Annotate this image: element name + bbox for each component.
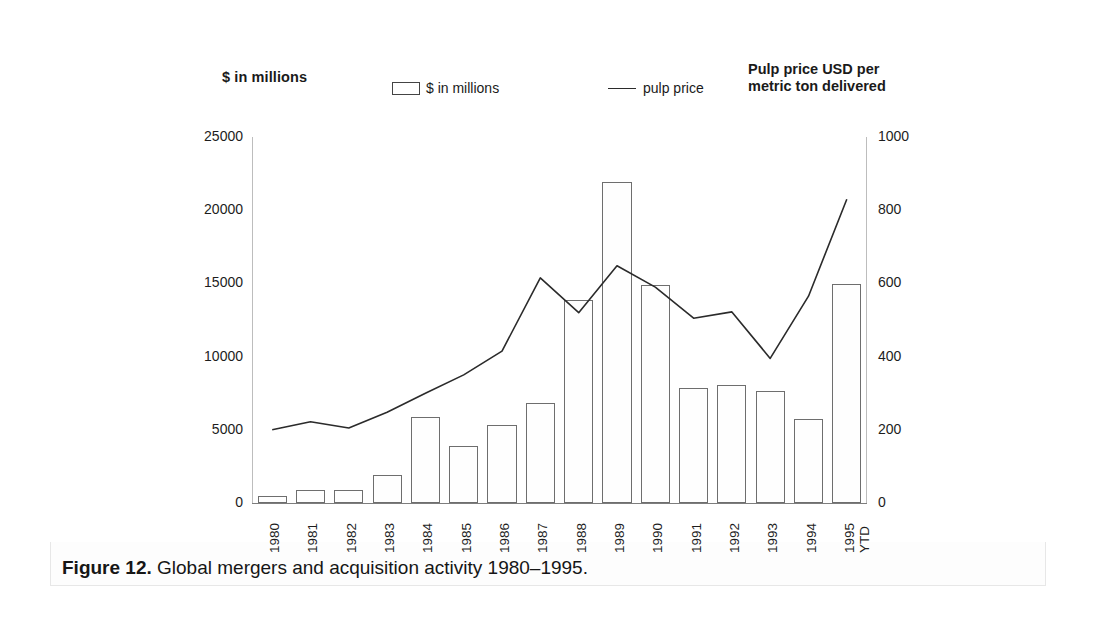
- x-tick-year: 1989: [612, 523, 627, 553]
- right-axis-tick-label: 400: [878, 348, 938, 364]
- x-tick-sublabel: YTD: [857, 523, 872, 553]
- left-axis-title: $ in millions: [222, 69, 307, 85]
- x-axis-tick-label: 1994: [804, 523, 819, 553]
- x-tick-year: 1984: [420, 523, 435, 553]
- x-axis-tick-label: 1992: [727, 523, 742, 553]
- legend-bar-swatch-icon: [392, 82, 420, 95]
- right-axis-tick-label: 800: [878, 201, 938, 217]
- right-axis-tick-label: 0: [878, 494, 938, 510]
- x-axis-tick-label: 1983: [382, 523, 397, 553]
- left-axis-tick-label: 20000: [181, 201, 243, 217]
- x-axis-tick-label: 1989: [612, 523, 627, 553]
- x-tick-year: 1987: [535, 523, 550, 553]
- x-tick-year: 1990: [650, 523, 665, 553]
- left-axis-tick-label: 10000: [181, 348, 243, 364]
- bar-1993: [756, 391, 785, 503]
- x-tick-year: 1981: [305, 523, 320, 553]
- x-tick-year: 1983: [382, 523, 397, 553]
- left-axis-tick-label: 5000: [181, 421, 243, 437]
- bar-1994: [794, 419, 823, 503]
- x-tick-year: 1995: [842, 523, 857, 553]
- figure-number: Figure 12.: [62, 557, 152, 578]
- plot-area: [253, 137, 866, 503]
- bottom-axis-line: [252, 503, 867, 504]
- bar-1984: [411, 417, 440, 503]
- x-tick-year: 1991: [689, 523, 704, 553]
- figure-caption-text: Global mergers and acquisition activity …: [157, 557, 588, 578]
- bar-1989: [602, 182, 631, 503]
- right-axis-tick-label: 1000: [878, 128, 938, 144]
- left-axis-tick-label: 15000: [181, 274, 243, 290]
- x-axis-tick-label: 1981: [305, 523, 320, 553]
- legend-line-swatch-icon: [608, 88, 636, 89]
- x-tick-year: 1994: [804, 523, 819, 553]
- x-axis-tick-label: 1988: [574, 523, 589, 553]
- x-axis-tick-label: 1986: [497, 523, 512, 553]
- x-axis-tick-label: 1980: [267, 523, 282, 553]
- x-tick-year: 1982: [344, 523, 359, 553]
- right-axis-tick-label: 200: [878, 421, 938, 437]
- legend-line-label: pulp price: [643, 80, 704, 96]
- bar-1986: [487, 425, 516, 503]
- bar-1980: [258, 496, 287, 503]
- x-axis-tick-label: 1991: [689, 523, 704, 553]
- figure-page: $ in millions Pulp price USD per metric …: [0, 0, 1094, 617]
- legend-item-line: pulp price: [608, 80, 704, 96]
- right-axis-tick-label: 600: [878, 274, 938, 290]
- legend-bar-label: $ in millions: [426, 80, 499, 96]
- x-tick-year: 1986: [497, 523, 512, 553]
- x-axis-tick-label: 1993: [765, 523, 780, 553]
- x-axis-tick-label: 1984: [420, 523, 435, 553]
- bar-1988: [564, 300, 593, 503]
- left-axis-tick-label: 0: [181, 494, 243, 510]
- x-tick-year: 1988: [574, 523, 589, 553]
- bar-1983: [373, 475, 402, 503]
- x-axis-tick-label: 1987: [535, 523, 550, 553]
- x-tick-year: 1993: [765, 523, 780, 553]
- x-axis-tick-label: 1985: [459, 523, 474, 553]
- bar-1987: [526, 403, 555, 503]
- bar-1981: [296, 490, 325, 503]
- x-axis-tick-label: 1995YTD: [842, 523, 872, 553]
- bar-1982: [334, 490, 363, 503]
- bar-1995-YTD: [832, 284, 861, 503]
- bar-1985: [449, 446, 478, 503]
- right-axis-line: [866, 137, 867, 504]
- left-axis-tick-label: 25000: [181, 128, 243, 144]
- bar-1992: [717, 385, 746, 503]
- legend-item-bars: $ in millions: [392, 80, 499, 96]
- bar-1991: [679, 388, 708, 503]
- figure-caption: Figure 12. Global mergers and acquisitio…: [62, 557, 588, 579]
- x-tick-year: 1985: [459, 523, 474, 553]
- bar-1990: [641, 285, 670, 503]
- x-axis-tick-label: 1982: [344, 523, 359, 553]
- x-axis-tick-label: 1990: [650, 523, 665, 553]
- x-tick-year: 1992: [727, 523, 742, 553]
- x-tick-year: 1980: [267, 523, 282, 553]
- right-axis-title: Pulp price USD per metric ton delivered: [748, 61, 948, 95]
